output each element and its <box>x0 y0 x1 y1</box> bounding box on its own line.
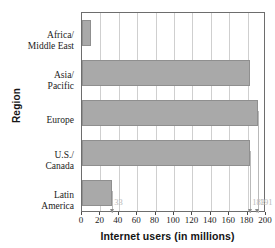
x-axis-tick-label: 20 <box>95 215 104 225</box>
x-axis-tick-labels: 020406080100120140160180200 <box>81 215 265 227</box>
category-label-line1: Asia/ <box>2 70 74 81</box>
x-axis-tick-label: 160 <box>221 215 235 225</box>
category-label-line1: Latin <box>2 190 74 201</box>
x-axis-tick-label: 120 <box>185 215 199 225</box>
category-label-us-canada: U.S./ Canada <box>2 150 74 171</box>
bar <box>82 20 91 46</box>
x-axis-title: Internet users (in millions) <box>60 230 275 242</box>
x-axis-tick-label: 100 <box>166 215 180 225</box>
category-label-line2: Middle East <box>2 41 74 52</box>
category-label-line1: Africa/ <box>2 30 74 41</box>
category-label-line1: U.S./ <box>2 150 74 161</box>
category-label-line2: Canada <box>2 161 74 172</box>
category-axis-labels: Africa/ Middle East Asia/ Pacific Europe… <box>2 12 78 212</box>
plot-area: 33183191 <box>81 12 265 212</box>
x-axis-tick-label: 200 <box>258 215 272 225</box>
annotation-leader-line <box>258 111 259 213</box>
bar <box>82 100 258 126</box>
x-axis-tick-label: 60 <box>132 215 141 225</box>
annotation-value: 191 <box>260 197 273 207</box>
bar-chart: Region Africa/ Middle East Asia/ Pacific… <box>0 0 275 248</box>
bar <box>82 180 112 206</box>
category-label-europe: Europe <box>2 115 74 126</box>
chart-title <box>81 0 265 2</box>
annotation-value: 33 <box>114 197 123 207</box>
bar <box>82 140 250 166</box>
category-label-line1: Europe <box>2 115 74 126</box>
x-axis-tick-label: 180 <box>240 215 254 225</box>
x-axis-tick-label: 40 <box>113 215 122 225</box>
x-axis-tick-label: 0 <box>79 215 84 225</box>
category-label-line2: America <box>2 201 74 212</box>
category-label-latin-america: Latin America <box>2 190 74 211</box>
category-label-asia-pacific: Asia/ Pacific <box>2 70 74 91</box>
bar <box>82 60 250 86</box>
x-axis-tick-label: 140 <box>203 215 217 225</box>
category-label-line2: Pacific <box>2 81 74 92</box>
x-axis-tick-label: 80 <box>150 215 159 225</box>
annotation-leader-line <box>250 151 251 213</box>
category-label-africa-middle-east: Africa/ Middle East <box>2 30 74 51</box>
